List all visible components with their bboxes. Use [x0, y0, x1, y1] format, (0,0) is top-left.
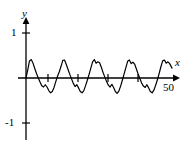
y-tick-label-negative-one: -1 [5, 117, 14, 128]
x-axis-label: x [175, 57, 180, 68]
plot-canvas [0, 0, 191, 148]
x-end-label-fifty: 50 [163, 82, 174, 93]
y-tick-label-one: 1 [11, 27, 17, 38]
y-axis-label: y [22, 8, 27, 19]
figure-container: y x 1 -1 50 [0, 0, 191, 148]
axes-group [18, 17, 180, 140]
x-axis-arrowhead [173, 75, 180, 82]
